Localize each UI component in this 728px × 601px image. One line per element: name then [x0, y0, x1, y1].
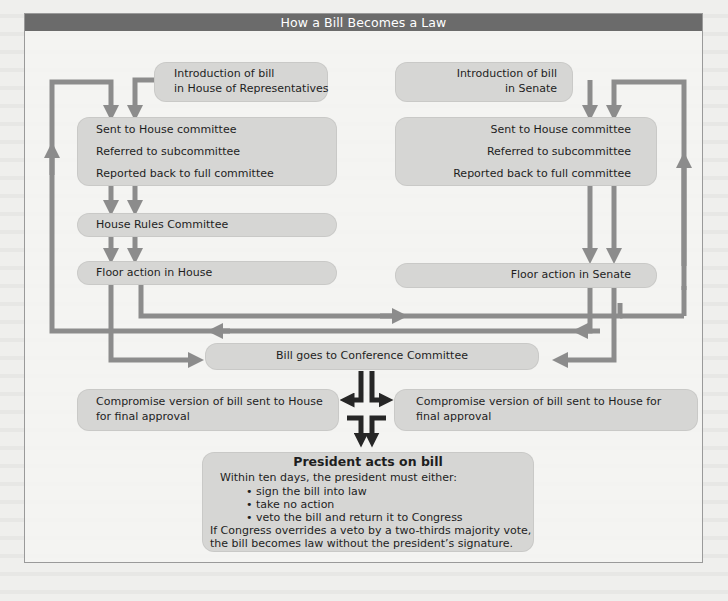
conference-committee-box: Bill goes to Conference Committee [205, 343, 539, 370]
house-floor-label: Floor action in House [96, 266, 212, 280]
senate-committee-box: Sent to House committee Referred to subc… [395, 117, 657, 186]
house-committee-step2: Referred to subcommittee [96, 145, 240, 159]
compromise-left-line1: Compromise version of bill sent to House [96, 395, 323, 409]
president-box: President acts on bill Within ten days, … [202, 452, 534, 552]
house-intro-box: Introduction of bill in House of Represe… [154, 62, 328, 102]
compromise-left-line2: for final approval [96, 410, 190, 424]
president-option-no-action: • take no action [246, 498, 334, 512]
house-committee-box: Sent to House committee Referred to subc… [77, 117, 337, 186]
senate-intro-line1: Introduction of bill [457, 67, 557, 81]
house-intro-line1: Introduction of bill [174, 67, 274, 81]
house-rules-label: House Rules Committee [96, 218, 228, 232]
compromise-right-box: Compromise version of bill sent to House… [394, 389, 698, 431]
president-override-line2: the bill becomes law without the preside… [210, 537, 513, 551]
president-override-line1: If Congress overrides a veto by a two-th… [210, 524, 531, 538]
house-committee-step1: Sent to House committee [96, 123, 236, 137]
senate-intro-line2: in Senate [505, 82, 557, 96]
president-intro: Within ten days, the president must eith… [220, 471, 457, 485]
arrow-house-intro [135, 80, 155, 113]
senate-committee-step1: Sent to House committee [491, 123, 631, 137]
conference-label: Bill goes to Conference Committee [205, 349, 539, 363]
president-option-veto: • veto the bill and return it to Congres… [246, 511, 463, 525]
senate-floor-label: Floor action in Senate [511, 268, 631, 282]
house-floor-box: Floor action in House [77, 261, 337, 285]
house-intro-line2: in House of Representatives [174, 82, 328, 96]
president-option-sign: • sign the bill into law [246, 485, 367, 499]
compromise-right-line1: Compromise version of bill sent to House… [416, 395, 661, 409]
president-title: President acts on bill [202, 455, 534, 469]
house-rules-box: House Rules Committee [77, 213, 337, 237]
senate-committee-step2: Referred to subcommittee [487, 145, 631, 159]
senate-intro-box: Introduction of bill in Senate [395, 62, 573, 102]
house-committee-step3: Reported back to full committee [96, 167, 274, 181]
compromise-left-box: Compromise version of bill sent to House… [77, 389, 339, 431]
senate-floor-box: Floor action in Senate [395, 263, 657, 288]
compromise-right-line2: final approval [416, 410, 491, 424]
senate-committee-step3: Reported back to full committee [453, 167, 631, 181]
